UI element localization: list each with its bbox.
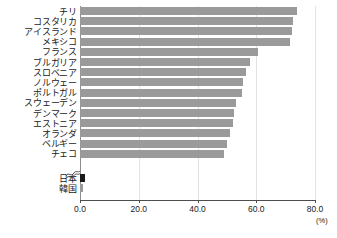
bar [80, 27, 292, 35]
x-axis-tick-label: 80.0 [307, 204, 324, 214]
gridline [315, 6, 316, 200]
bar-category-label: チリ [59, 7, 77, 17]
bar [80, 89, 242, 97]
x-axis-tick [80, 200, 81, 203]
bar [80, 184, 83, 192]
bar [80, 129, 230, 137]
bar [80, 38, 290, 46]
bar-category-label: フランス [42, 47, 77, 57]
x-axis-tick-label: 20.0 [130, 204, 147, 214]
bar [80, 119, 233, 127]
bar-category-label: スロベニア [33, 68, 77, 78]
bar [80, 68, 246, 76]
bar [80, 140, 227, 148]
bar-category-label: スウェーデン [24, 98, 77, 108]
bar-category-label: ノルウェー [33, 78, 77, 88]
bar [80, 7, 297, 15]
x-axis-tick [315, 200, 316, 203]
bar-category-label: ポルトガル [33, 88, 77, 98]
horizontal-bar-chart: チリコスタリカアイスランドメキシコフランスブルガリアスロベニアノルウェーポルトガ… [0, 0, 337, 238]
bar [80, 48, 258, 56]
bar [80, 78, 243, 86]
x-axis-tick [256, 200, 257, 203]
x-axis-tick [139, 200, 140, 203]
bar-category-label: オランダ [42, 129, 77, 139]
x-axis-tick-label: 60.0 [248, 204, 265, 214]
x-axis-tick-label: 40.0 [189, 204, 206, 214]
x-axis-unit-label: (%) [316, 216, 328, 225]
bar [80, 17, 293, 25]
plot-area: チリコスタリカアイスランドメキシコフランスブルガリアスロベニアノルウェーポルトガ… [80, 6, 315, 200]
bar-category-label: アイスランド [24, 27, 77, 37]
bar-row: チェコ [80, 149, 315, 160]
axis-break-icon [64, 169, 82, 179]
bar [80, 150, 224, 158]
bar-category-label: チェコ [51, 149, 77, 159]
bar-category-label: コスタリカ [33, 17, 77, 27]
x-axis-tick [198, 200, 199, 203]
x-axis-tick-label: 0.0 [74, 204, 86, 214]
bar-category-label: メキシコ [42, 37, 77, 47]
bar-row: 韓国 [80, 183, 315, 194]
bar [80, 109, 234, 117]
bar-category-label: エストニア [33, 119, 77, 129]
bar [80, 58, 250, 66]
bar [80, 99, 236, 107]
bar-category-label: デンマーク [33, 109, 77, 119]
bar-category-label: ブルガリア [33, 58, 77, 68]
bar-category-label: 韓国 [59, 184, 77, 194]
bar-category-label: ベルギー [42, 139, 77, 149]
